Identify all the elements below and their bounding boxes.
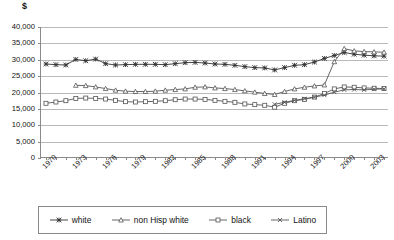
legend-label: black bbox=[231, 215, 251, 225]
asterisk-marker bbox=[83, 58, 88, 63]
square-marker bbox=[163, 99, 167, 103]
asterisk-marker bbox=[332, 53, 337, 58]
chart-legend: whitenon Hisp whiteblackLatino bbox=[38, 206, 327, 234]
legend-item-white[interactable]: white bbox=[49, 215, 92, 225]
asterisk-marker bbox=[193, 60, 198, 65]
square-marker bbox=[208, 215, 228, 225]
square-marker bbox=[143, 100, 147, 104]
triangle-marker bbox=[342, 46, 347, 50]
square-marker bbox=[153, 99, 157, 103]
square-marker bbox=[243, 102, 247, 106]
y-tick-label: 30,000 bbox=[0, 56, 35, 64]
asterisk-marker bbox=[223, 62, 228, 67]
y-tick-mark bbox=[38, 158, 41, 159]
square-marker bbox=[203, 97, 207, 101]
square-marker bbox=[263, 103, 267, 107]
y-tick-label: 0 bbox=[0, 154, 35, 162]
y-tick-label: 25,000 bbox=[0, 72, 35, 80]
square-marker bbox=[84, 96, 88, 100]
square-marker bbox=[193, 97, 197, 101]
square-marker bbox=[223, 99, 227, 103]
square-marker bbox=[104, 97, 108, 101]
y-tick-label: 35,000 bbox=[0, 39, 35, 47]
square-marker bbox=[183, 97, 187, 101]
square-marker bbox=[124, 100, 128, 104]
square-marker bbox=[74, 96, 78, 100]
x-marker bbox=[270, 215, 290, 225]
series-line bbox=[76, 49, 384, 95]
asterisk-marker bbox=[153, 62, 158, 67]
square-marker bbox=[54, 100, 58, 104]
y-tick-label: 20,000 bbox=[0, 89, 35, 97]
y-tick-label: 5,000 bbox=[0, 138, 35, 146]
asterisk-marker bbox=[123, 62, 128, 67]
asterisk-marker bbox=[203, 61, 208, 66]
legend-item-non-hisp-white[interactable]: non Hisp white bbox=[111, 215, 189, 225]
square-marker bbox=[253, 103, 257, 107]
asterisk-marker bbox=[292, 63, 297, 68]
triangle-marker bbox=[111, 215, 131, 225]
asterisk-marker bbox=[93, 57, 98, 62]
square-marker bbox=[64, 99, 68, 103]
asterisk-marker bbox=[163, 62, 168, 67]
asterisk-marker bbox=[252, 65, 257, 70]
asterisk-marker bbox=[73, 57, 78, 62]
square-marker bbox=[114, 98, 118, 102]
legend-item-latino[interactable]: Latino bbox=[270, 215, 316, 225]
asterisk-marker bbox=[143, 62, 148, 67]
asterisk-marker bbox=[54, 62, 59, 67]
asterisk-marker bbox=[213, 62, 218, 67]
asterisk-marker bbox=[49, 215, 69, 225]
y-axis-unit-label: $ bbox=[22, 1, 27, 11]
asterisk-marker bbox=[272, 68, 277, 73]
legend-item-black[interactable]: black bbox=[208, 215, 251, 225]
y-tick-label: 15,000 bbox=[0, 105, 35, 113]
plot-area: 40,00035,00030,00025,00020,00015,00010,0… bbox=[40, 27, 388, 158]
square-marker bbox=[213, 98, 217, 102]
square-marker bbox=[44, 101, 48, 105]
asterisk-marker bbox=[183, 60, 188, 65]
series-overlay bbox=[41, 27, 389, 158]
square-marker bbox=[216, 218, 220, 222]
square-marker bbox=[133, 100, 137, 104]
legend-label: white bbox=[72, 215, 92, 225]
asterisk-marker bbox=[56, 218, 61, 223]
asterisk-marker bbox=[103, 61, 108, 66]
asterisk-marker bbox=[302, 62, 307, 67]
legend-label: non Hisp white bbox=[134, 215, 189, 225]
asterisk-marker bbox=[63, 63, 68, 68]
y-tick-label: 10,000 bbox=[0, 121, 35, 129]
square-marker bbox=[233, 100, 237, 104]
y-tick-label: 40,000 bbox=[0, 23, 35, 31]
legend-label: Latino bbox=[293, 215, 316, 225]
asterisk-marker bbox=[282, 65, 287, 70]
asterisk-marker bbox=[242, 64, 247, 69]
asterisk-marker bbox=[133, 62, 138, 67]
square-marker bbox=[94, 96, 98, 100]
asterisk-marker bbox=[262, 66, 267, 71]
asterisk-marker bbox=[312, 60, 317, 65]
square-marker bbox=[173, 98, 177, 102]
asterisk-marker bbox=[113, 63, 118, 68]
asterisk-marker bbox=[232, 63, 237, 68]
asterisk-marker bbox=[322, 56, 327, 61]
asterisk-marker bbox=[44, 62, 49, 67]
asterisk-marker bbox=[173, 61, 178, 66]
income-by-race-line-chart: $ 40,00035,00030,00025,00020,00015,00010… bbox=[0, 0, 394, 240]
